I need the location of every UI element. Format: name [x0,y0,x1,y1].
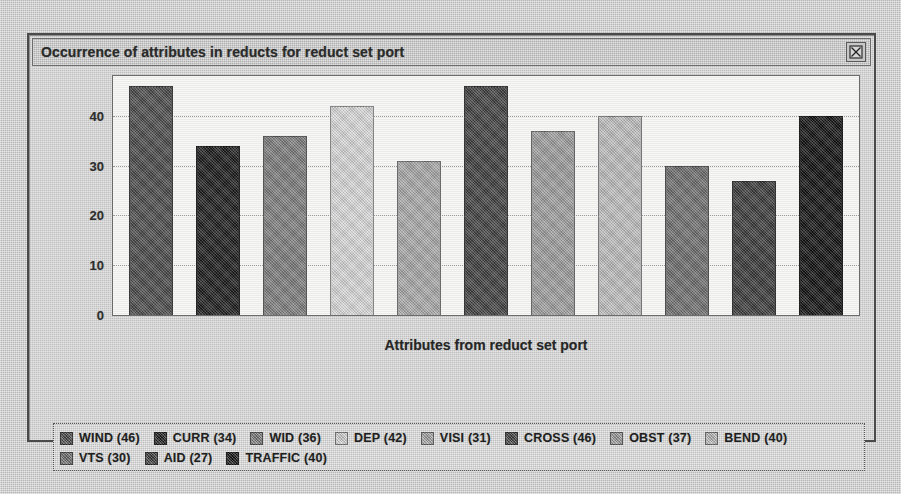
bar [397,161,441,315]
legend-label: CURR (34) [173,431,237,445]
legend-item[interactable]: CURR (34) [154,431,237,445]
legend: WIND (46)CURR (34)WID (36)DEP (42)VISI (… [53,423,865,471]
plot-canvas [112,75,860,316]
legend-item[interactable]: VISI (31) [421,431,491,445]
x-axis-label: Attributes from reduct set port [112,337,860,353]
y-tick-label: 40 [90,108,104,123]
bar-series [113,76,859,315]
legend-label: TRAFFIC (40) [245,451,327,465]
legend-label: WID (36) [269,431,321,445]
legend-row: VTS (30)AID (27)TRAFFIC (40) [60,448,858,468]
legend-label: AID (27) [164,451,213,465]
legend-swatch-icon [335,432,348,445]
close-icon[interactable] [846,42,866,62]
plot-wrapper: 010203040 Attributes from reduct set por… [34,75,869,323]
window-titlebar[interactable]: Occurrence of attributes in reducts for … [32,38,871,66]
y-tick-label: 30 [90,158,104,173]
legend-item[interactable]: WID (36) [250,431,321,445]
legend-item[interactable]: AID (27) [145,451,213,465]
legend-swatch-icon [154,432,167,445]
legend-swatch-icon [250,432,263,445]
legend-label: VTS (30) [79,451,131,465]
legend-swatch-icon [505,432,518,445]
y-tick-label: 10 [90,258,104,273]
legend-swatch-icon [145,452,158,465]
legend-item[interactable]: WIND (46) [60,431,140,445]
legend-swatch-icon [421,432,434,445]
chart-area: 010203040 Attributes from reduct set por… [34,69,869,399]
legend-label: BEND (40) [724,431,787,445]
bar [799,116,843,315]
bar [464,86,508,315]
chart-window: Occurrence of attributes in reducts for … [27,33,876,442]
legend-label: DEP (42) [354,431,407,445]
y-tick-label: 0 [97,308,104,323]
legend-item[interactable]: DEP (42) [335,431,407,445]
bar [531,131,575,315]
legend-label: CROSS (46) [524,431,596,445]
legend-row: WIND (46)CURR (34)WID (36)DEP (42)VISI (… [60,428,858,448]
bar [129,86,173,315]
bar [196,146,240,315]
legend-label: VISI (31) [440,431,491,445]
bar [330,106,374,315]
legend-item[interactable]: CROSS (46) [505,431,596,445]
legend-item[interactable]: BEND (40) [705,431,787,445]
legend-swatch-icon [60,452,73,465]
y-axis: 010203040 [34,75,110,323]
legend-item[interactable]: VTS (30) [60,451,131,465]
legend-swatch-icon [226,452,239,465]
legend-swatch-icon [610,432,623,445]
bar [263,136,307,315]
bar [732,181,776,315]
legend-item[interactable]: TRAFFIC (40) [226,451,327,465]
legend-label: OBST (37) [629,431,691,445]
window-title: Occurrence of attributes in reducts for … [33,44,404,60]
legend-swatch-icon [705,432,718,445]
bar [598,116,642,315]
bar [665,166,709,315]
legend-label: WIND (46) [79,431,140,445]
legend-swatch-icon [60,432,73,445]
legend-item[interactable]: OBST (37) [610,431,691,445]
y-tick-label: 20 [90,208,104,223]
